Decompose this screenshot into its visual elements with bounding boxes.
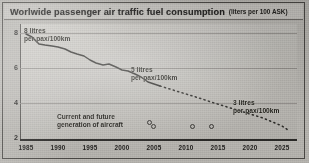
x-tick-2015: 2015 [210,144,225,151]
legend-aircraft-line2: generation of aircraft [57,121,123,129]
legend-marker-icon [147,120,152,125]
x-tick-2020: 2020 [242,144,257,151]
aircraft-generation-marker [151,124,156,129]
annotation-8-litres-line2: per pax/100km [24,35,70,43]
legend-aircraft-generation: Current and future generation of aircraf… [57,113,123,130]
annotation-5-litres: 5 litres per pax/100km [131,66,177,83]
annotation-3-litres: 3 litres per pax/100km [233,99,279,116]
y-tick-6: 6 [8,64,18,71]
y-tick-8: 8 [8,29,18,36]
chart-screenshot: Worlwide passenger air traffic fuel cons… [0,0,309,163]
annotation-8-litres: 8 litres per pax/100km [24,27,70,44]
y-tick-2: 2 [8,134,18,141]
annotation-5-litres-line2: per pax/100km [131,74,177,82]
x-tick-1995: 1995 [82,144,97,151]
x-tick-1985: 1985 [18,144,33,151]
x-tick-2025: 2025 [274,144,289,151]
annotation-3-litres-line2: per pax/100km [233,107,279,115]
x-tick-2000: 2000 [114,144,129,151]
aircraft-generation-marker [209,124,214,129]
x-tick-2010: 2010 [178,144,193,151]
aircraft-generation-marker [190,124,195,129]
x-tick-1990: 1990 [50,144,65,151]
chart-title-bar: Worlwide passenger air traffic fuel cons… [4,4,303,20]
y-tick-4: 4 [8,99,18,106]
page-title: Worlwide passenger air traffic fuel cons… [10,7,225,17]
x-tick-2005: 2005 [146,144,161,151]
chart-unit-label: (liters per 100 ASK) [229,8,288,16]
